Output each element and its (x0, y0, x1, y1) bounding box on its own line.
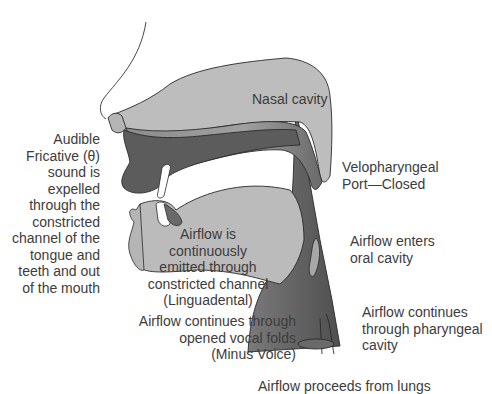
label-audible-fricative: Audible Fricative (θ) sound is expelled … (0, 131, 100, 296)
label-airflow-continuous: Airflow is continuously emitted through … (138, 226, 278, 309)
label-velopharyngeal-port: Velopharyngeal Port—Closed (342, 159, 439, 192)
label-airflow-vocal-folds: Airflow continues through opened vocal f… (110, 313, 296, 363)
label-airflow-lungs: Airflow proceeds from lungs (258, 378, 431, 394)
label-airflow-enters-oral: Airflow enters oral cavity (350, 233, 435, 266)
label-nasal-cavity: Nasal cavity (252, 91, 327, 108)
upper-lip (122, 129, 300, 193)
label-airflow-pharyngeal: Airflow continues through pharyngeal cav… (362, 304, 483, 354)
vocal-folds (298, 339, 334, 349)
